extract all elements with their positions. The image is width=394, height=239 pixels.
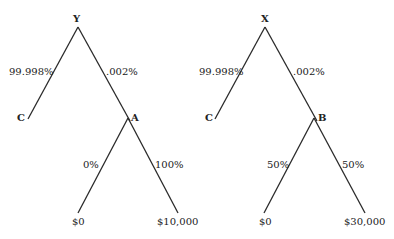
node-x-label: X	[261, 14, 269, 24]
prob-b-30000-label: 50%	[342, 160, 364, 170]
prob-x-b-label: .002%	[293, 67, 325, 77]
prob-b-0-label: 50%	[267, 160, 289, 170]
payoff-a-0-label: $0	[72, 217, 85, 227]
payoff-b-0-label: $0	[259, 217, 272, 227]
payoff-b-30000-label: $30,000	[344, 217, 385, 227]
prob-a-0-label: 0%	[83, 160, 99, 170]
outcome-c-label-right: C	[205, 113, 213, 123]
decision-tree-diagram	[0, 0, 394, 239]
node-a-label: A	[131, 113, 139, 123]
outcome-c-label-left: C	[17, 113, 25, 123]
prob-y-c-label: 99.998%	[9, 67, 54, 77]
prob-x-c-label: 99.998%	[199, 67, 244, 77]
prob-a-10000-label: 100%	[155, 160, 184, 170]
prob-y-a-label: .002%	[106, 67, 138, 77]
node-y-label: Y	[73, 14, 80, 24]
node-b-label: B	[318, 113, 326, 123]
payoff-a-10000-label: $10,000	[157, 217, 198, 227]
